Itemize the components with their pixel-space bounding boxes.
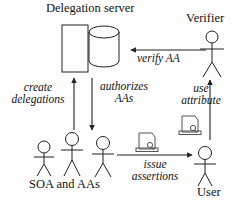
label-authorizes-aas-line2: AAs bbox=[93, 92, 155, 104]
label-create-delegations-line1: create bbox=[2, 81, 74, 93]
label-issue-assertions-line1: issue bbox=[124, 158, 186, 170]
label-use-attribute: use attribute bbox=[176, 82, 226, 106]
label-soa-and-aas: SOA and AAs bbox=[29, 178, 100, 191]
delegation-architecture-diagram: Delegation server Verifier create delega… bbox=[0, 0, 241, 206]
label-issue-assertions-line2: assertions bbox=[124, 170, 186, 182]
certificate-icon-attribute bbox=[179, 116, 201, 135]
certificate-icon-assertion bbox=[136, 133, 158, 152]
label-verifier: Verifier bbox=[186, 12, 224, 25]
delegation-server-database-cylinder bbox=[89, 26, 119, 67]
label-authorizes-aas: authorizes AAs bbox=[93, 80, 155, 104]
soa-stick-figure-3 bbox=[92, 137, 114, 178]
delegation-server-rectangle bbox=[62, 25, 88, 72]
user-stick-figure bbox=[194, 147, 216, 187]
soa-stick-figure-2 bbox=[61, 133, 83, 177]
label-authorizes-aas-line1: authorizes bbox=[93, 80, 155, 92]
label-create-delegations: create delegations bbox=[2, 81, 74, 105]
label-delegation-server: Delegation server bbox=[46, 2, 135, 15]
label-use-attribute-line2: attribute bbox=[176, 94, 226, 106]
label-create-delegations-line2: delegations bbox=[2, 93, 74, 105]
label-user: User bbox=[197, 186, 221, 199]
verifier-stick-figure bbox=[200, 31, 224, 77]
label-issue-assertions: issue assertions bbox=[124, 158, 186, 182]
label-verify-aa: verify AA bbox=[137, 52, 180, 64]
soa-stick-figure-1 bbox=[34, 141, 54, 176]
label-use-attribute-line1: use bbox=[176, 82, 226, 94]
